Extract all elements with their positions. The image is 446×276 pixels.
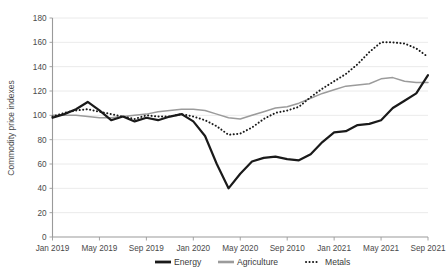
legend-label-metals: Metals	[325, 257, 350, 267]
series-line-metals	[53, 42, 429, 134]
chart-legend: EnergyAgricultureMetals	[155, 257, 350, 267]
y-tick-label: 0	[42, 233, 47, 242]
y-tick-label: 140	[33, 63, 47, 72]
x-tick-label: May 2021	[363, 244, 399, 253]
y-tick-label: 40	[37, 184, 47, 193]
y-tick-label: 180	[33, 14, 47, 23]
series-line-energy	[53, 75, 429, 188]
x-axis-tick-labels: Jan 2019May 2019Sep 2019Jan 2020May 2020…	[36, 244, 446, 253]
x-tick-label: May 2020	[222, 244, 258, 253]
x-tick-label: Jan 2021	[317, 244, 351, 253]
chart-canvas: 020406080100120140160180 Jan 2019May 201…	[0, 0, 446, 276]
x-tick-label: Sep 2019	[129, 244, 165, 253]
commodity-price-index-chart: 020406080100120140160180 Jan 2019May 201…	[0, 0, 446, 276]
y-tick-label: 120	[33, 87, 47, 96]
y-tick-label: 60	[37, 160, 47, 169]
series-line-agriculture	[53, 78, 429, 119]
legend-label-agriculture: Agriculture	[237, 257, 278, 267]
x-tick-label: Jan 2020	[176, 244, 210, 253]
y-axis-tick-labels: 020406080100120140160180	[33, 14, 47, 242]
x-tick-label: May 2019	[81, 244, 117, 253]
y-tick-label: 80	[37, 136, 47, 145]
legend-label-energy: Energy	[174, 257, 202, 267]
y-axis-title: Commodity price indexes	[6, 80, 16, 175]
x-tick-label: Jan 2019	[36, 244, 70, 253]
y-tick-label: 160	[33, 38, 47, 47]
y-tick-label: 20	[37, 209, 47, 218]
y-tick-label: 100	[33, 111, 47, 120]
x-tick-label: Sep 2010	[270, 244, 306, 253]
x-tick-label: Sep 2021	[410, 244, 446, 253]
